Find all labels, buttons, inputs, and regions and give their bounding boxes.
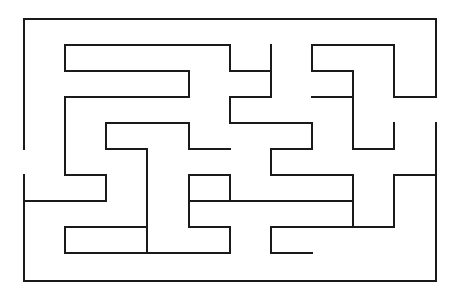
maze-board [0,0,461,298]
